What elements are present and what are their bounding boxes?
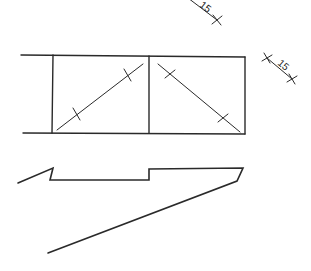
brace-left <box>57 64 143 130</box>
profile-section <box>18 168 243 253</box>
brace-right <box>158 64 240 132</box>
dimension-top-label: 15 <box>198 0 214 15</box>
technical-drawing: 15 15 <box>0 0 311 271</box>
panel-frame <box>21 55 245 134</box>
drawing-canvas: 15 15 <box>0 0 311 271</box>
dimension-right-label: 15 <box>276 57 292 73</box>
